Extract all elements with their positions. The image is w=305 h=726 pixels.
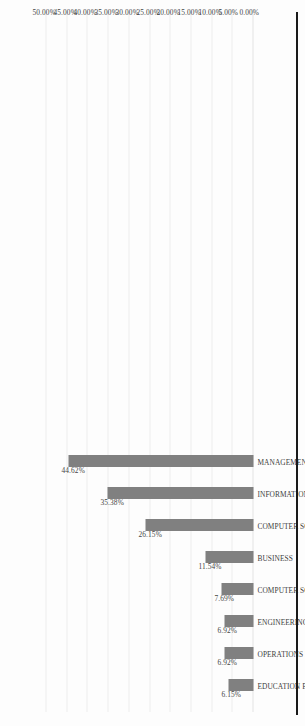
tick-label: 30.00%	[115, 8, 138, 17]
tick-label: 10.00%	[198, 8, 221, 17]
tick-label: 35.00%	[94, 8, 117, 17]
tick-label: 45.00%	[53, 8, 76, 17]
tick-label: 50.00%	[32, 8, 55, 17]
tick-label: 0.00%	[239, 8, 259, 17]
chart-stage: 6.15%6.92%6.92%7.69%11.54%26.15%35.38%44…	[20, 0, 285, 726]
value-axis-tick-labels: 0.00%5.00%10.00%15.00%20.00%25.00%30.00%…	[46, 12, 253, 712]
tick-label: 15.00%	[177, 8, 200, 17]
tick-label: 25.00%	[136, 8, 159, 17]
category-label: BUSINESS	[257, 554, 292, 563]
plot-area: 6.15%6.92%6.92%7.69%11.54%26.15%35.38%44…	[46, 12, 253, 712]
rotated-chart-wrapper: 6.15%6.92%6.92%7.69%11.54%26.15%35.38%44…	[0, 0, 305, 726]
chart-figure: 6.15%6.92%6.92%7.69%11.54%26.15%35.38%44…	[0, 0, 305, 726]
page-edge-rule	[296, 12, 298, 715]
tick-label: 40.00%	[73, 8, 96, 17]
